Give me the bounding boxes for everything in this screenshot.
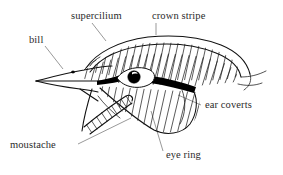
supercilium-lower-border: [90, 44, 241, 77]
bill-upper-mandible: [36, 66, 112, 81]
moustache-inner-edge: [90, 103, 132, 134]
label-ear-coverts: ear coverts: [205, 99, 252, 110]
bird-head-topography-figure: supercilium crown stripe bill ear covert…: [0, 0, 283, 175]
head-drawing-group: [36, 33, 266, 138]
diagram-canvas: supercilium crown stripe bill ear covert…: [0, 0, 283, 175]
leader-line-ear-coverts: [178, 95, 201, 105]
label-crown-stripe: crown stripe: [152, 10, 206, 21]
bill-lower-mandible: [36, 81, 98, 92]
bill-nostril-icon: [71, 71, 74, 73]
leader-line-supercilium: [92, 23, 106, 41]
label-bill: bill: [29, 34, 43, 45]
leader-line-bill: [45, 46, 63, 69]
label-eye-ring: eye ring: [166, 149, 202, 160]
label-supercilium: supercilium: [71, 10, 122, 21]
leader-line-moustache: [78, 118, 131, 144]
eye-stripe-right: [150, 76, 196, 93]
label-moustache: moustache: [10, 139, 56, 150]
nape-trailing-feather-2: [241, 71, 266, 77]
moustache-hatching: [86, 96, 132, 133]
